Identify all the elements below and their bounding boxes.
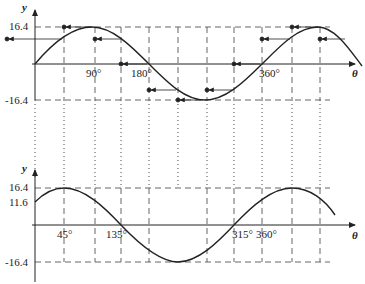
top-x-axis-label: θ — [352, 68, 358, 79]
bottom-y-axis-label: y — [22, 163, 27, 174]
top-x-tick-90: 90° — [86, 68, 101, 79]
bottom-y-tick-intercept: 11.6 — [9, 197, 28, 208]
bottom-y-tick-min: -16.4 — [5, 257, 28, 268]
bottom-x-axis-label: θ — [352, 230, 358, 241]
bottom-plot — [32, 170, 355, 282]
top-y-tick-min: -16.4 — [5, 95, 28, 106]
diagram: y θ 16.4 -16.4 90° 180° 360° y θ 16.4 11… — [0, 0, 365, 284]
top-x-tick-360: 360° — [259, 68, 280, 79]
bottom-x-tick-315: 315° — [232, 229, 253, 240]
top-plot — [5, 10, 362, 102]
dotted-connectors — [35, 100, 320, 188]
bottom-x-tick-135: 135° — [106, 229, 127, 240]
graph-canvas — [0, 0, 365, 284]
bottom-x-tick-45: 45° — [57, 229, 72, 240]
top-y-tick-max: 16.4 — [9, 21, 28, 32]
top-y-axis-label: y — [22, 2, 27, 13]
bottom-x-tick-360: 360° — [256, 229, 277, 240]
top-x-tick-180: 180° — [131, 68, 152, 79]
bottom-y-tick-max: 16.4 — [9, 182, 28, 193]
